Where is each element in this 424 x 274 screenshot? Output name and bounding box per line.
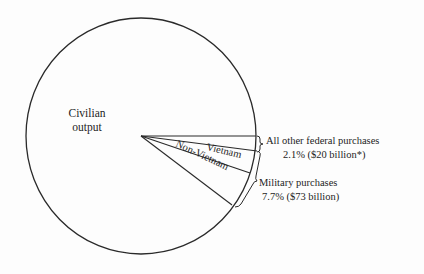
- military-label-line1: Military purchases: [259, 177, 337, 188]
- military-label-line2: 7.7% ($73 billion): [262, 191, 340, 203]
- federal-label-line1: All other federal purchases: [266, 135, 379, 146]
- federal-label-line2: 2.1% ($20 billion*): [283, 149, 366, 161]
- civilian-label-line2: output: [72, 121, 102, 134]
- federal-brace: [257, 136, 263, 152]
- pie-chart: Civilian output Vietnam Non-Vietnam All …: [0, 0, 424, 274]
- civilian-label-line1: Civilian: [68, 107, 105, 119]
